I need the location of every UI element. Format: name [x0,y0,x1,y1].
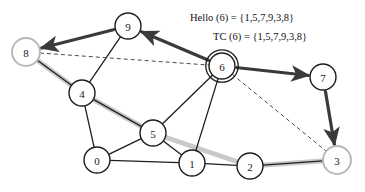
annotation-tc: TC (6) = {1,5,7,9,3,8} [213,31,307,43]
node-5-label: 5 [150,128,156,140]
node-7[interactable]: 7 [310,64,336,90]
edge-1-2 [205,164,237,166]
node-7-label: 7 [320,72,326,84]
node-1-label: 1 [189,158,195,170]
edge-8-4 [37,60,71,85]
node-4-label: 4 [79,88,85,100]
edge-0-1 [110,160,179,162]
node-6[interactable]: 6 [206,50,238,82]
node-2-label: 2 [247,161,253,173]
arrow-6-to-7 [236,68,309,76]
node-3[interactable]: 3 [323,146,351,174]
node-0-label: 0 [94,155,100,167]
node-0[interactable]: 0 [84,147,110,173]
arrow-9-to-8 [41,29,115,48]
network-graph-svg: 8967450123 Hello (6) = {1,5,7,9,3,8}TC (… [0,0,365,192]
edge-6-5 [162,75,212,124]
arrow-7-to-3 [325,91,334,145]
node-1[interactable]: 1 [179,150,205,176]
edge-8-6 [40,53,209,65]
diagram-canvas: 8967450123 Hello (6) = {1,5,7,9,3,8}TC (… [0,0,365,192]
node-2[interactable]: 2 [237,153,263,179]
edge-4-5 [93,99,141,126]
node-5[interactable]: 5 [140,120,166,146]
annotation-layer: Hello (6) = {1,5,7,9,3,8}TC (6) = {1,5,7… [190,12,307,43]
edge-6-3 [232,74,326,151]
edge-5-0 [109,139,142,155]
annotation-hello: Hello (6) = {1,5,7,9,3,8} [190,12,294,24]
node-9[interactable]: 9 [115,13,141,39]
edge-4-0 [85,106,94,148]
edge-6-1 [196,78,218,150]
mpr-relay-path [26,52,337,166]
node-6-label: 6 [219,61,225,73]
node-8-label: 8 [23,47,29,59]
mpr-path-layer [26,52,337,166]
node-3-label: 3 [334,155,340,167]
edge-9-4 [89,37,120,83]
node-8[interactable]: 8 [12,38,40,66]
arrow-6-to-9 [141,31,209,60]
node-9-label: 9 [125,21,131,33]
node-4[interactable]: 4 [69,80,95,106]
